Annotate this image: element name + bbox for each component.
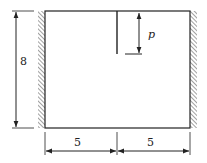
left-width-label: 5 <box>74 136 81 149</box>
height-label: 8 <box>20 55 27 68</box>
height-dimension: 8 <box>12 11 34 128</box>
right-width-label: 5 <box>147 136 154 149</box>
right-fixed-wall <box>190 11 197 128</box>
plate-diagram: p 8 5 5 <box>0 0 207 163</box>
width-dimensions: 5 5 <box>45 132 190 155</box>
crack-length-label: p <box>148 28 155 41</box>
left-fixed-wall <box>38 11 45 128</box>
